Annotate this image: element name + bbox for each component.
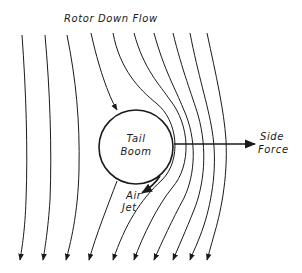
streamline-2 xyxy=(43,35,51,260)
streamline-1 xyxy=(20,35,27,260)
air-jet-label-1: Air xyxy=(125,190,142,201)
flow-diagram: Rotor Down Flow Tail Boom Air Jet Side F… xyxy=(0,0,302,273)
streamline-4 xyxy=(91,33,117,110)
diagram-title: Rotor Down Flow xyxy=(64,13,158,24)
streamline-3 xyxy=(66,35,79,260)
tail-boom-label-2: Boom xyxy=(120,146,151,157)
side-force-label-1: Side xyxy=(260,131,284,142)
streamline-8 xyxy=(173,33,204,260)
tail-boom-label-1: Tail xyxy=(126,133,145,144)
side-force-label-2: Force xyxy=(258,144,289,155)
air-jet-label-2: Jet xyxy=(120,202,137,213)
streamline-4b xyxy=(89,181,117,260)
streamline-10 xyxy=(207,33,226,260)
streamline-9 xyxy=(190,33,214,260)
